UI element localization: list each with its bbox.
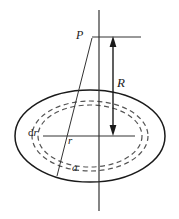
figure-container: P R r a dr [0, 0, 179, 219]
label-distance-r: R [117, 76, 125, 89]
label-radius-a: a [72, 162, 78, 173]
label-thickness-dr: dr [28, 127, 38, 138]
label-point-p: P [76, 29, 83, 41]
double-headed-arrow-R [110, 36, 117, 136]
label-dr-variable: r [34, 126, 38, 138]
slant-line-a [57, 38, 92, 176]
label-radius-r: r [68, 135, 72, 146]
charged-disc-diagram [0, 0, 179, 219]
